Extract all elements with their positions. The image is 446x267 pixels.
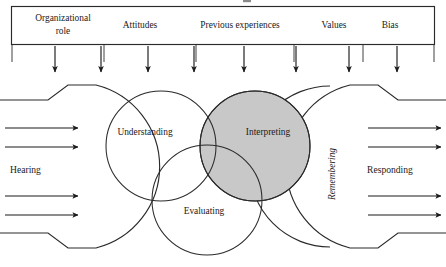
- venn-label-interpreting: Interpreting: [246, 127, 291, 137]
- remembering-label: Remembering: [327, 148, 337, 201]
- cropped-artifact: [243, 0, 251, 2]
- factor-label-values: Values: [322, 20, 347, 30]
- factor-label-previous-experiences: Previous experiences: [200, 20, 280, 30]
- factor-label-bias: Bias: [382, 20, 399, 30]
- factor-label-organizational-role-line2: role: [56, 26, 71, 36]
- influence-down-arrows: [55, 46, 397, 72]
- venn-label-evaluating: Evaluating: [184, 206, 225, 216]
- listening-process-diagram: Organizational role Attitudes Previous e…: [0, 0, 446, 267]
- factor-dividers: [12, 45, 434, 63]
- influencing-factors-box: Organizational role Attitudes Previous e…: [12, 7, 435, 63]
- responding-label: Responding: [367, 164, 413, 175]
- listening-venn: Understanding Interpreting Evaluating: [106, 91, 310, 255]
- venn-label-understanding: Understanding: [117, 127, 173, 137]
- factor-label-attitudes: Attitudes: [123, 20, 158, 30]
- hearing-label: Hearing: [10, 164, 41, 175]
- factor-label-organizational-role-line1: Organizational: [35, 13, 91, 23]
